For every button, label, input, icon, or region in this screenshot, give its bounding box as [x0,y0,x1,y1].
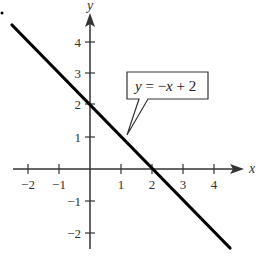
y-axis: 4 3 2 1 −1 −2 y [67,0,95,249]
callout-var-y: y [133,78,142,94]
x-tick-label: 1 [118,177,125,192]
y-axis-label: y [85,0,94,13]
stray-dot [1,12,4,15]
function-line [12,25,230,248]
x-tick-label: −1 [52,177,66,192]
x-tick-label: 4 [211,177,218,192]
y-tick-label: 1 [75,130,82,145]
x-tick-label: −2 [21,177,35,192]
y-tick-label: −1 [67,194,81,209]
y-tick-label: −2 [67,226,81,241]
equation-callout: y = −x + 2 [127,72,208,135]
x-axis-label: x [248,161,256,176]
callout-plus-two: + 2 [173,78,196,94]
x-axis: −2 −1 1 2 3 4 x [13,161,256,192]
x-tick-label: 2 [149,177,156,192]
callout-equals-minus: = − [142,78,166,94]
x-tick-label: 3 [180,177,187,192]
y-tick-label: 2 [75,97,82,112]
y-tick-label: 3 [75,66,82,81]
coordinate-plane: −2 −1 1 2 3 4 x 4 3 2 1 −1 −2 y y = −x +… [0,0,267,269]
y-tick-label: 4 [75,35,82,50]
callout-equation: y = −x + 2 [133,78,196,94]
